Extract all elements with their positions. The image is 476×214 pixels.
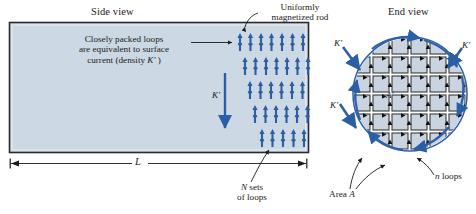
end-view-kprime-left: K′ — [334, 38, 342, 48]
rod-length-label: L — [135, 156, 141, 168]
n-loops-leader — [417, 158, 434, 175]
callout-line-1: Closely packed loops — [58, 34, 190, 44]
end-view-title: End view — [388, 6, 429, 18]
callout-line-2: are equivalent to surface — [58, 44, 190, 54]
figure-container: Side view Closely packed loops are equiv… — [0, 0, 476, 214]
magnetized-rod-line-1: Uniformly — [252, 2, 348, 12]
callout-kprime-symbol: K′ — [147, 55, 155, 65]
closely-packed-loops-callout: Closely packed loops are equivalent to s… — [58, 34, 190, 65]
area-a-leader — [350, 158, 385, 189]
net-surface-current-arcs — [355, 37, 463, 150]
end-view-kprime-lower-left: K′ — [330, 100, 338, 110]
kprime-leader-lower-left — [340, 104, 356, 128]
callout-current-prefix: current (density — [87, 55, 147, 65]
uniformly-magnetized-rod-label: Uniformly magnetized rod — [252, 2, 348, 23]
callout-current-suffix: ) — [156, 55, 161, 65]
area-a-symbol: A — [349, 189, 355, 199]
n-sets-line-2: of loops — [222, 192, 282, 202]
side-view-title: Side view — [91, 6, 134, 18]
n-sets-of-loops-label: N sets of loops — [222, 182, 282, 203]
end-view-group — [340, 37, 468, 189]
n-sets-text: sets — [247, 182, 263, 192]
kprime-leader-left — [343, 47, 360, 70]
area-a-prefix: Area — [329, 189, 349, 199]
n-loops-text: loops — [440, 171, 462, 181]
area-a-label: Area A — [329, 189, 355, 199]
end-view-kprime-right: K′ — [462, 40, 470, 50]
cell-area-label: A′ — [386, 90, 393, 100]
surface-current-label-side: K′ — [212, 90, 220, 100]
n-sets-callout-leader — [251, 150, 269, 182]
magnetized-rod-line-2: magnetized rod — [252, 12, 348, 22]
n-sets-line-1: N sets — [222, 182, 282, 192]
n-loops-label: n loops — [435, 171, 462, 181]
callout-line-3: current (density K′ ) — [58, 55, 190, 65]
